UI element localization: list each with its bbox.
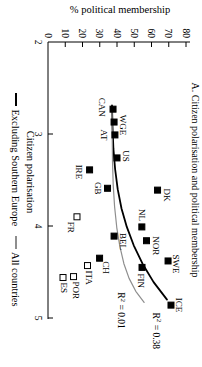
country-label-POR: POR xyxy=(71,282,81,300)
data-point-POR xyxy=(71,274,77,280)
data-point-FIN xyxy=(139,264,145,270)
country-label-ITA: ITA xyxy=(84,271,94,286)
y-tick-label: 0 xyxy=(43,33,53,38)
y-tick-label: 70 xyxy=(163,29,173,39)
y-tick-label: 80 xyxy=(181,29,191,39)
data-point-FR xyxy=(74,214,80,220)
x-tick-label: 5 xyxy=(33,316,43,321)
gray-line-sample-icon xyxy=(15,236,17,249)
data-point-IRE xyxy=(87,167,93,173)
rotated-figure: A. Citizen polarisation and political me… xyxy=(0,0,202,367)
y-tick-label: 60 xyxy=(146,29,156,39)
country-label-SWE: SWE xyxy=(171,254,181,274)
axes-frame xyxy=(48,42,190,319)
country-label-CH: CH xyxy=(101,261,111,274)
country-label-BEL: BEL xyxy=(118,233,128,250)
data-point-CAN xyxy=(110,106,116,112)
country-label-NL: NL xyxy=(137,209,147,221)
country-label-NOR: NOR xyxy=(150,236,160,255)
y-tick-label: 20 xyxy=(77,29,87,39)
data-point-AT xyxy=(112,132,118,138)
data-point-NOR xyxy=(143,238,149,244)
x-tick-label: 2 xyxy=(33,40,43,45)
black-line-sample-icon xyxy=(15,93,17,106)
legend-label: All countries xyxy=(11,252,22,307)
data-point-NL xyxy=(139,224,145,230)
data-point-ES xyxy=(60,275,66,281)
legend-entry-all-countries: All countries xyxy=(11,236,22,307)
country-label-WGE: WGE xyxy=(118,115,128,136)
y-tick-label: 30 xyxy=(94,29,104,39)
country-label-US: US xyxy=(121,150,131,162)
y-tick-label: 50 xyxy=(129,29,139,39)
x-tick-label: 3 xyxy=(33,132,43,137)
country-label-ICE: ICE xyxy=(174,298,184,313)
country-label-ES: ES xyxy=(59,283,69,294)
country-label-IRE: IRE xyxy=(74,165,84,180)
data-point-DK xyxy=(155,187,161,193)
data-point-BEL xyxy=(111,233,117,239)
data-point-ITA xyxy=(85,263,91,269)
scatter-plot-area: 010203040506070802345R2 = 0.38R2 = 0.01C… xyxy=(0,0,202,367)
country-label-CAN: CAN xyxy=(97,98,107,118)
country-label-FR: FR xyxy=(66,222,76,233)
data-point-GB xyxy=(105,185,111,191)
data-point-US xyxy=(114,155,120,161)
x-tick-label: 4 xyxy=(33,224,43,229)
country-label-AT: AT xyxy=(99,129,109,141)
y-tick-label: 40 xyxy=(112,29,122,39)
r2-label-1: R2 = 0.01 xyxy=(116,292,128,329)
legend: Excluding Southern Europe All countries xyxy=(9,56,23,344)
y-tick-label: 10 xyxy=(60,29,70,39)
country-label-GB: GB xyxy=(93,182,103,195)
country-label-DK: DK xyxy=(162,189,172,202)
r2-label-0: R2 = 0.38 xyxy=(151,312,163,349)
legend-entry-excluding-southern-europe: Excluding Southern Europe xyxy=(11,93,22,226)
country-label-FIN: FIN xyxy=(136,273,146,288)
legend-label: Excluding Southern Europe xyxy=(11,109,22,226)
data-point-WGE xyxy=(111,119,117,125)
